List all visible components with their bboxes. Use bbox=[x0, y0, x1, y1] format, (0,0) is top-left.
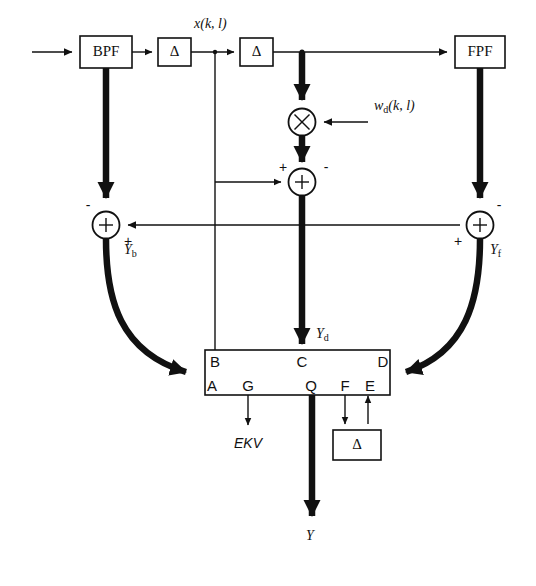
weight-signal-label: wd(k, l) bbox=[374, 98, 415, 115]
svg-text:wd(k, l): wd(k, l) bbox=[374, 98, 415, 115]
summer-center-minus-sign: - bbox=[324, 159, 329, 175]
port-label-f: F bbox=[340, 377, 349, 394]
port-label-q: Q bbox=[305, 377, 317, 394]
bpf-label: BPF bbox=[93, 43, 120, 59]
yb-curve-to-block bbox=[106, 239, 186, 372]
svg-text:Yd: Yd bbox=[316, 326, 329, 343]
summer-left-minus-sign: - bbox=[86, 197, 91, 213]
summer-center-plus-sign: + bbox=[279, 159, 287, 175]
block-diagram-canvas: BPF Δ Δ FPF Δ x(k, l) wd(k, l) Yb Yd bbox=[0, 0, 536, 586]
delta1-label: Δ bbox=[170, 43, 180, 59]
yf-curve-to-block bbox=[406, 239, 480, 372]
svg-text:Yf: Yf bbox=[490, 242, 502, 259]
fpf-label: FPF bbox=[467, 43, 492, 59]
ekv-label: EKV bbox=[234, 435, 264, 451]
summer-left-plus-sign: + bbox=[124, 233, 132, 249]
port-label-e: E bbox=[365, 377, 375, 394]
summer-left-node[interactable] bbox=[93, 212, 120, 239]
delta3-feedback-lines bbox=[345, 395, 368, 424]
port-label-b: B bbox=[210, 353, 220, 370]
delta2-label: Δ bbox=[252, 43, 262, 59]
port-label-c: C bbox=[297, 353, 308, 370]
port-label-a: A bbox=[207, 377, 217, 394]
multiplier-node[interactable] bbox=[289, 109, 316, 136]
yf-sub: f bbox=[498, 248, 502, 259]
yf-label: Yf bbox=[490, 242, 502, 259]
summer-center-node[interactable] bbox=[289, 169, 316, 196]
weight-rest: (k, l) bbox=[388, 98, 415, 114]
delta3-label: Δ bbox=[352, 436, 362, 452]
port-label-g: G bbox=[242, 377, 254, 394]
input-signal-label: x(k, l) bbox=[193, 16, 227, 32]
y-output-label: Y bbox=[306, 528, 316, 543]
diagram-svg: BPF Δ Δ FPF Δ x(k, l) wd(k, l) Yb Yd bbox=[0, 0, 536, 586]
port-label-d: D bbox=[378, 353, 389, 370]
summer-right-plus-sign: + bbox=[454, 233, 462, 249]
yd-label: Yd bbox=[316, 326, 329, 343]
yd-sub: d bbox=[324, 332, 329, 343]
yb-sub: b bbox=[132, 248, 137, 259]
summer-right-minus-sign: - bbox=[497, 197, 502, 213]
x-tap-vertical-line bbox=[211, 50, 281, 366]
summer-right-node[interactable] bbox=[467, 212, 494, 239]
